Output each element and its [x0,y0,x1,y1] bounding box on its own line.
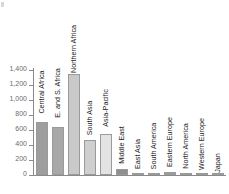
bar[interactable] [36,122,48,175]
y-axis-tick-mark [29,115,33,116]
bar-group[interactable]: East Asia [132,10,144,176]
y-axis-tick-label: 0 [23,170,27,177]
bar[interactable] [52,127,64,175]
y-axis-tick-mark [29,160,33,161]
bar-category-label: Central Africa [38,70,46,113]
bar-category-label: East Asia [134,139,142,169]
y-axis-tick-mark [29,100,33,101]
y-axis-tick-label: 600 [15,125,27,132]
bar-group[interactable]: North America [180,10,192,176]
y-axis-tick-label: 200 [15,155,27,162]
bar-group[interactable]: Eastern Europe [164,10,176,176]
bar-group[interactable]: Western Europe [196,10,208,176]
plot-area: 02004006008001,0001,2001,400 Central Afr… [33,10,226,175]
bar[interactable] [212,173,224,175]
bar[interactable] [164,172,176,175]
bar-category-label: Japan [214,153,222,173]
bar-group[interactable]: Central Africa [36,10,48,176]
bar[interactable] [196,173,208,175]
y-axis-tick-mark [29,145,33,146]
bar-group[interactable]: Northern Africa [68,10,80,176]
y-axis-tick-label: 800 [15,110,27,117]
bar[interactable] [148,173,160,175]
bars-layer: Central AfricaE. and S. AfricaNorthern A… [34,10,226,176]
bar[interactable] [100,134,112,175]
bar-category-label: Eastern Europe [166,117,174,167]
bar-category-label: South Asia [86,101,94,135]
bar-category-label: Asia-Pacific [102,89,110,127]
bar-category-label: South America [150,122,158,169]
bar[interactable] [132,173,144,175]
bar[interactable] [116,169,128,175]
bar-group[interactable]: South Asia [84,10,96,176]
y-axis-tick-label: 1,000 [9,95,27,102]
bar-chart: 02004006008001,0001,2001,400 Central Afr… [0,0,229,194]
bar[interactable] [84,140,96,175]
y-axis-tick-mark [29,70,33,71]
bar-group[interactable]: E. and S. Africa [52,10,64,176]
bar-category-label: Northern Africa [70,25,78,73]
y-axis-tick-label: 400 [15,140,27,147]
bar-category-label: Middle East [118,127,126,165]
bar-category-label: North America [182,123,190,169]
bar-group[interactable]: Asia-Pacific [100,10,112,176]
y-axis-tick-label: 1,200 [9,80,27,87]
y-axis-tick-mark [29,85,33,86]
bar[interactable] [180,173,192,175]
bar-category-label: E. and S. Africa [54,68,62,118]
y-axis-tick-label: 1,400 [9,65,27,72]
bar-category-label: Western Europe [198,118,206,170]
corner-artifact-mark [1,2,4,7]
bar-group[interactable]: Middle East [116,10,128,176]
bar[interactable] [68,74,80,175]
bar-group[interactable]: South America [148,10,160,176]
bar-group[interactable]: Japan [212,10,224,176]
y-axis-tick-mark [29,130,33,131]
y-axis-tick-mark [29,175,33,176]
